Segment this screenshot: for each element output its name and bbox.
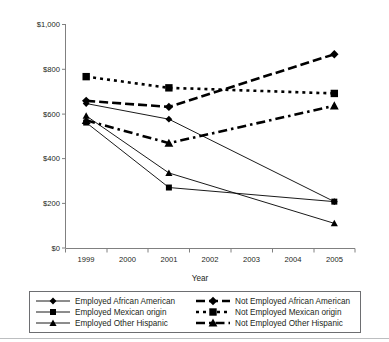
legend-label: Not Employed Mexican origin [235, 308, 342, 317]
x-tick-label: 2003 [243, 255, 260, 264]
legend-label: Employed African American [75, 297, 176, 306]
x-tick-label: 2000 [119, 255, 136, 264]
data-point [166, 185, 172, 191]
data-point [331, 90, 338, 97]
legend-label: Employed Mexican origin [75, 308, 167, 317]
legend-label: Not Employed Other Hispanic [235, 319, 343, 328]
x-tick-label: 2002 [202, 255, 219, 264]
y-tick-label: $600 [43, 110, 60, 119]
y-tick-label: $200 [43, 199, 60, 208]
legend-label: Not Employed African American [235, 297, 351, 306]
x-tick-label: 2004 [285, 255, 302, 264]
legend-marker-square-icon [50, 309, 56, 315]
x-tick-label: 2001 [161, 255, 178, 264]
line-chart: $1,000 $800 $600 $400 $200 $0 [0, 0, 389, 342]
legend-marker-square-icon [209, 308, 216, 315]
y-tick-label: $0 [52, 244, 60, 253]
data-point [82, 73, 89, 80]
y-tick-label: $800 [43, 65, 60, 74]
data-point [165, 84, 172, 91]
data-point [331, 199, 337, 205]
y-tick-label: $400 [43, 154, 60, 163]
legend-label: Employed Other Hispanic [75, 319, 168, 328]
x-tick-label: 1999 [78, 255, 95, 264]
chart-background [0, 0, 389, 342]
chart-figure: $1,000 $800 $600 $400 $200 $0 [0, 0, 389, 342]
x-axis-title: Year [192, 274, 209, 283]
x-tick-label: 2005 [326, 255, 343, 264]
y-tick-label: $1,000 [37, 20, 60, 29]
